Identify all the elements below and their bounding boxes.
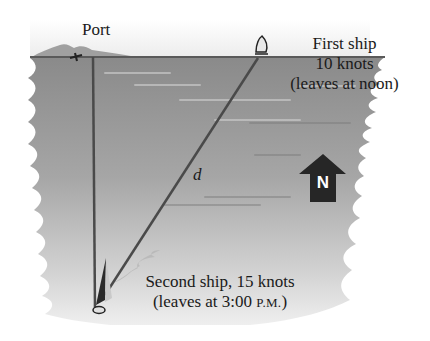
departure-close: ) xyxy=(281,292,287,311)
port-label: Port xyxy=(82,20,110,40)
departure-time-suffix: P.M. xyxy=(256,295,281,310)
first-ship-name: First ship xyxy=(277,34,412,54)
diagram-scene: Port First ship 10 knots (leaves at noon… xyxy=(0,0,430,341)
second-ship-name-speed: Second ship, 15 knots xyxy=(120,272,320,292)
second-ship-label: Second ship, 15 knots (leaves at 3:00 P.… xyxy=(120,272,320,313)
first-ship-label: First ship 10 knots (leaves at noon) xyxy=(277,34,412,94)
distance-label: d xyxy=(193,165,202,185)
second-ship-departure: (leaves at 3:00 P.M.) xyxy=(120,292,320,313)
north-letter: N xyxy=(312,173,334,193)
first-ship-speed: 10 knots xyxy=(277,54,412,74)
first-ship-departure: (leaves at noon) xyxy=(277,74,412,94)
departure-prefix: (leaves at 3:00 xyxy=(153,292,256,311)
